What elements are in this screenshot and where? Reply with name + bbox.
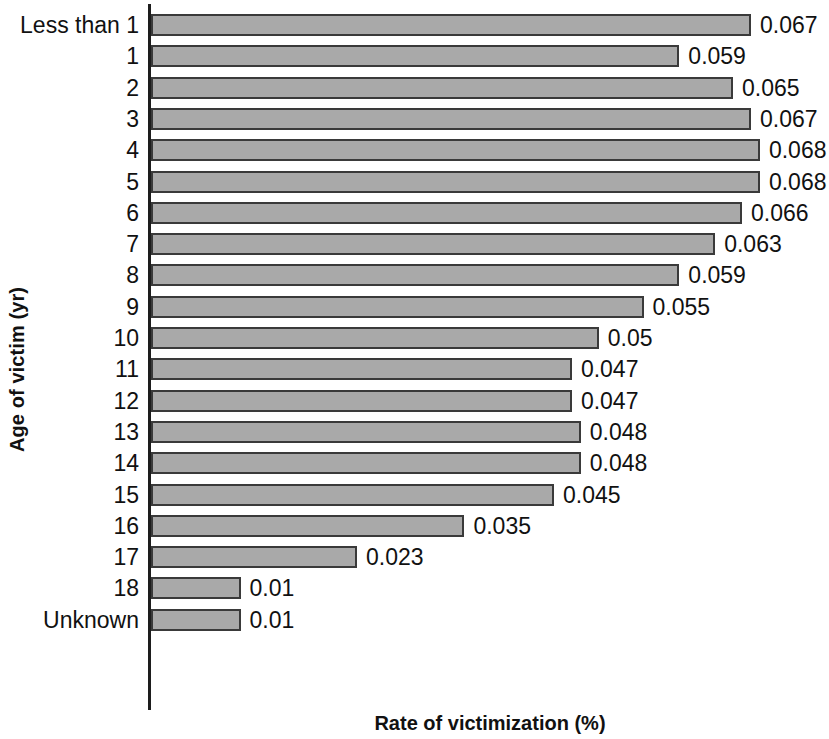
bar (151, 171, 760, 193)
category-label: 10 (113, 327, 139, 350)
bar-row: 120.047 (0, 390, 829, 412)
bar-wrapper (151, 171, 760, 193)
bar (151, 202, 742, 224)
bar-value-label: 0.067 (760, 108, 818, 131)
bar-wrapper (151, 515, 464, 537)
bar (151, 577, 241, 599)
bar (151, 233, 715, 255)
plot-area: Less than 10.06710.05920.06530.06740.068… (0, 0, 829, 710)
bar-wrapper (151, 546, 357, 568)
category-label: 4 (126, 139, 139, 162)
bar (151, 546, 357, 568)
bar (151, 515, 464, 537)
bar-row: 160.035 (0, 515, 829, 537)
category-label: 1 (126, 45, 139, 68)
bar-row: 40.068 (0, 139, 829, 161)
category-label: 3 (126, 108, 139, 131)
bar-wrapper (151, 14, 751, 36)
bar-value-label: 0.059 (688, 45, 746, 68)
bar-row: 180.01 (0, 577, 829, 599)
bar-row: 150.045 (0, 484, 829, 506)
bar-row: 130.048 (0, 421, 829, 443)
bar-row: 90.055 (0, 296, 829, 318)
bar (151, 421, 581, 443)
category-label: 2 (126, 77, 139, 100)
bar (151, 14, 751, 36)
bar-row: 30.067 (0, 108, 829, 130)
bar-value-label: 0.065 (742, 77, 800, 100)
bar (151, 484, 554, 506)
bar-value-label: 0.068 (769, 139, 827, 162)
bar-value-label: 0.023 (366, 546, 424, 569)
bar-wrapper (151, 264, 679, 286)
bar-wrapper (151, 390, 572, 412)
bar-row: Unknown0.01 (0, 609, 829, 631)
bar-wrapper (151, 296, 644, 318)
x-axis-title: Rate of victimization (%) (151, 712, 829, 735)
bar-row: 70.063 (0, 233, 829, 255)
bar-value-label: 0.047 (581, 390, 639, 413)
bar-value-label: 0.067 (760, 14, 818, 37)
bar-value-label: 0.05 (608, 327, 653, 350)
category-label: 17 (113, 546, 139, 569)
bar-value-label: 0.059 (688, 264, 746, 287)
category-label: 6 (126, 202, 139, 225)
bar (151, 139, 760, 161)
bar (151, 390, 572, 412)
bar-row: 10.059 (0, 45, 829, 67)
category-label: 5 (126, 171, 139, 194)
bar-value-label: 0.066 (751, 202, 809, 225)
bar-row: 50.068 (0, 171, 829, 193)
category-label: 16 (113, 515, 139, 538)
category-label: Unknown (43, 609, 139, 632)
bar-value-label: 0.01 (250, 577, 295, 600)
bar-wrapper (151, 202, 742, 224)
category-label: Less than 1 (20, 14, 139, 37)
bar-wrapper (151, 358, 572, 380)
bar-value-label: 0.063 (724, 233, 782, 256)
bar (151, 45, 679, 67)
bar-wrapper (151, 139, 760, 161)
category-label: 12 (113, 390, 139, 413)
bar (151, 358, 572, 380)
bar (151, 77, 733, 99)
category-label: 14 (113, 452, 139, 475)
bar-wrapper (151, 45, 679, 67)
bar-wrapper (151, 484, 554, 506)
bar-row: 110.047 (0, 358, 829, 380)
bar (151, 452, 581, 474)
bar (151, 327, 599, 349)
bar (151, 609, 241, 631)
bar-row: 140.048 (0, 452, 829, 474)
category-label: 8 (126, 264, 139, 287)
bar-value-label: 0.055 (653, 296, 711, 319)
bar-row: 60.066 (0, 202, 829, 224)
bar-row: 170.023 (0, 546, 829, 568)
bar-wrapper (151, 421, 581, 443)
bar-wrapper (151, 77, 733, 99)
category-label: 11 (115, 358, 139, 381)
category-label: 9 (126, 296, 139, 319)
bar (151, 296, 644, 318)
bar-value-label: 0.045 (563, 484, 621, 507)
category-label: 13 (113, 421, 139, 444)
bar-wrapper (151, 577, 241, 599)
bar-row: 20.065 (0, 77, 829, 99)
bar-value-label: 0.068 (769, 171, 827, 194)
bar-wrapper (151, 452, 581, 474)
bar-value-label: 0.035 (473, 515, 531, 538)
bar-value-label: 0.047 (581, 358, 639, 381)
bar-value-label: 0.01 (250, 609, 295, 632)
bar-row: Less than 10.067 (0, 14, 829, 36)
bar-wrapper (151, 609, 241, 631)
bar-row: 100.05 (0, 327, 829, 349)
bar-wrapper (151, 108, 751, 130)
bar (151, 108, 751, 130)
category-label: 15 (113, 484, 139, 507)
category-label: 7 (126, 233, 139, 256)
category-label: 18 (113, 577, 139, 600)
bar-wrapper (151, 327, 599, 349)
bar-value-label: 0.048 (590, 452, 648, 475)
bar-value-label: 0.048 (590, 421, 648, 444)
bar-wrapper (151, 233, 715, 255)
